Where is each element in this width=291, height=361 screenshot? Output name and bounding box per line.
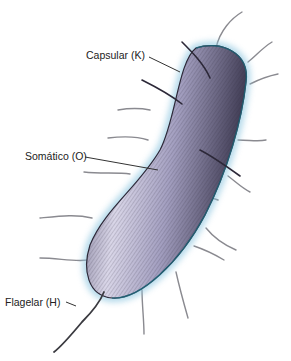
- label-capsular: Capsular (K): [86, 49, 145, 61]
- flagellum: [54, 292, 104, 352]
- label-flagellar: Flagelar (H): [5, 296, 60, 308]
- label-somatic: Somático (O): [25, 150, 87, 162]
